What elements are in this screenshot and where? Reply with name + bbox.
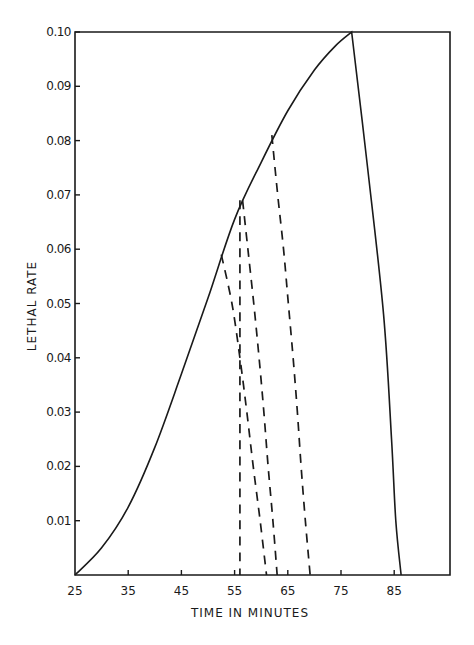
lethal-rate-curve [75, 32, 401, 575]
y-tick-label: 0.05 [46, 297, 71, 311]
x-tick-label: 85 [387, 584, 402, 598]
cooling-curve-dashed [272, 135, 310, 575]
y-tick-label: 0.08 [46, 134, 71, 148]
x-tick-label: 75 [333, 584, 348, 598]
y-tick-label: 0.06 [46, 242, 71, 256]
x-axis-title: TIME IN MINUTES [190, 606, 309, 620]
y-tick-label: 0.03 [46, 405, 71, 419]
y-tick-label: 0.09 [46, 79, 71, 93]
y-tick-label: 0.10 [46, 25, 71, 39]
data-series [75, 32, 401, 575]
chart-svg: 0.010.020.030.040.050.060.070.080.090.10… [0, 0, 474, 645]
y-axis-title: LETHAL RATE [25, 261, 39, 351]
y-tick-label: 0.02 [46, 459, 71, 473]
y-tick-label: 0.07 [46, 188, 71, 202]
x-tick-label: 65 [280, 584, 295, 598]
cooling-curve-dashed [243, 200, 278, 575]
x-tick-label: 25 [67, 584, 82, 598]
x-tick-label: 35 [121, 584, 136, 598]
y-tick-label: 0.04 [46, 351, 71, 365]
x-tick-label: 55 [227, 584, 242, 598]
x-tick-label: 45 [174, 584, 189, 598]
y-tick-label: 0.01 [46, 514, 71, 528]
chart: 0.010.020.030.040.050.060.070.080.090.10… [0, 0, 474, 645]
cooling-curve-dashed [221, 255, 266, 575]
